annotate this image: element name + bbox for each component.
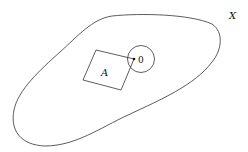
diagram-canvas: A 0 X bbox=[0, 0, 248, 152]
label-x: X bbox=[228, 10, 237, 21]
diagram: A 0 X bbox=[0, 0, 248, 152]
set-a-square bbox=[83, 50, 134, 90]
point-zero-dot bbox=[133, 58, 136, 61]
label-zero: 0 bbox=[138, 55, 144, 65]
space-x-boundary bbox=[13, 15, 220, 146]
label-a: A bbox=[100, 67, 108, 78]
